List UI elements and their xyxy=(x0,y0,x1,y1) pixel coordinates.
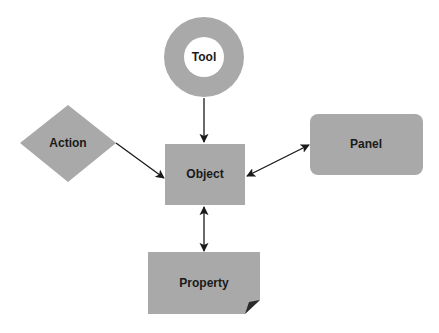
tool-label: Tool xyxy=(192,50,216,64)
panel-node[interactable]: Panel xyxy=(310,114,423,175)
object-label: Object xyxy=(186,167,223,181)
edge-object-panel xyxy=(247,145,309,176)
edge-action-object xyxy=(116,143,164,178)
object-node[interactable]: Object xyxy=(165,144,245,205)
panel-label: Panel xyxy=(350,137,382,151)
action-node[interactable]: Action xyxy=(20,105,116,182)
property-label: Property xyxy=(179,276,229,290)
property-node[interactable]: Property xyxy=(148,252,260,314)
tool-node[interactable]: Tool xyxy=(164,17,244,97)
action-label: Action xyxy=(49,136,86,150)
diagram-canvas: Tool Action Object Panel Property xyxy=(0,0,439,333)
